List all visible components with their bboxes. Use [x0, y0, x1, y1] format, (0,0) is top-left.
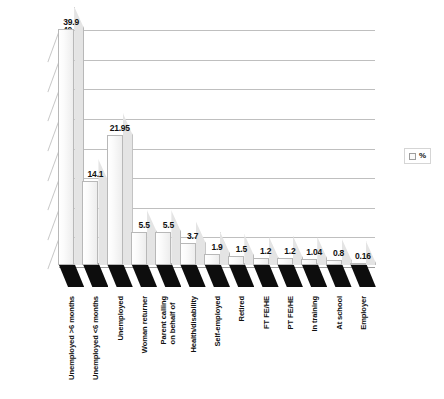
bar[interactable]: 14.1 — [82, 170, 108, 298]
bar-value-label: 21.95 — [100, 123, 140, 133]
bar[interactable]: 0.16 — [350, 252, 376, 298]
bar-front-face — [326, 260, 342, 265]
x-axis-category-text: Unemployed <6 months — [91, 296, 100, 380]
x-axis-category-label: In training — [301, 296, 327, 392]
bar-front-face — [131, 232, 147, 265]
x-axis-category-text: Woman returner — [140, 296, 149, 353]
bar-front-face — [107, 135, 123, 265]
x-axis-category-text: Health/disability — [188, 296, 197, 353]
bar-front-face — [301, 259, 317, 265]
bar-front-face — [82, 181, 98, 265]
bar-value-label: 0.16 — [343, 251, 383, 261]
bar-base — [82, 263, 108, 287]
bar-front-face — [180, 243, 196, 265]
x-axis-category-label: Parent calling on behalf of — [155, 296, 181, 392]
x-axis-category-label: Unemployed >6 months — [58, 296, 84, 392]
x-axis-category-text: Parent calling on behalf of — [159, 296, 177, 344]
x-axis-category-label: Employer — [350, 296, 376, 392]
bar-front-face — [253, 258, 269, 265]
bar-base — [107, 263, 133, 287]
x-axis-category-label: Retired — [228, 296, 254, 392]
x-axis-category-label: PT FE/HE — [277, 296, 303, 392]
legend-label-percent: % — [419, 152, 426, 160]
x-axis-category-text: PT FE/HE — [285, 296, 294, 329]
x-axis-category-label: Woman returner — [131, 296, 157, 392]
x-axis-category-text: Employer — [358, 296, 367, 330]
bar-front-face — [228, 256, 244, 265]
bar-base — [301, 263, 327, 287]
bar-value-label: 3.7 — [173, 231, 213, 241]
bar-front-face — [58, 29, 74, 265]
bar-front-face — [155, 232, 171, 265]
chart-legend: % — [404, 148, 431, 164]
x-axis-category-text: FT FE/HE — [261, 296, 270, 329]
x-axis-category-text: At school — [334, 296, 343, 330]
bar-base — [131, 263, 157, 287]
bar-base — [326, 263, 352, 287]
bar-series-group: 39.914.121.955.55.53.71.91.51.21.21.040.… — [38, 28, 375, 298]
x-axis-category-label: Unemployed <6 months — [82, 296, 108, 392]
bar[interactable]: 5.5 — [131, 221, 157, 298]
legend-swatch-percent — [409, 153, 416, 160]
x-axis-category-text: Unemployed >6 months — [67, 296, 76, 380]
x-axis-category-label: FT FE/HE — [253, 296, 279, 392]
bar-base — [253, 263, 279, 287]
bar-base — [155, 263, 181, 287]
bar-base — [204, 263, 230, 287]
bar-value-label: 39.9 — [51, 17, 91, 27]
bar-value-label: 5.5 — [148, 220, 188, 230]
bar-base — [277, 263, 303, 287]
x-axis-category-text: Self-employed — [213, 296, 222, 347]
bar-front-face — [204, 254, 220, 265]
x-axis-category-label: Health/disability — [180, 296, 206, 392]
x-axis-category-label: Self-employed — [204, 296, 230, 392]
x-axis-category-text: Retired — [237, 296, 246, 321]
bar-base — [350, 263, 376, 287]
x-axis-labels: Unemployed >6 monthsUnemployed <6 months… — [38, 296, 375, 396]
bar-base — [58, 263, 84, 287]
bar[interactable]: 21.95 — [107, 124, 133, 298]
bar-front-face — [350, 263, 366, 265]
bar-base — [228, 263, 254, 287]
bar[interactable]: 39.9 — [58, 18, 84, 298]
bar-chart: 0510152025303540 39.914.121.955.55.53.71… — [0, 0, 444, 399]
x-axis-category-label: Unemployed — [107, 296, 133, 392]
bar-base — [180, 263, 206, 287]
x-axis-category-text: Unemployed — [115, 296, 124, 341]
x-axis-category-text: In training — [310, 296, 319, 332]
bar-front-face — [277, 258, 293, 265]
x-axis-category-label: At school — [326, 296, 352, 392]
